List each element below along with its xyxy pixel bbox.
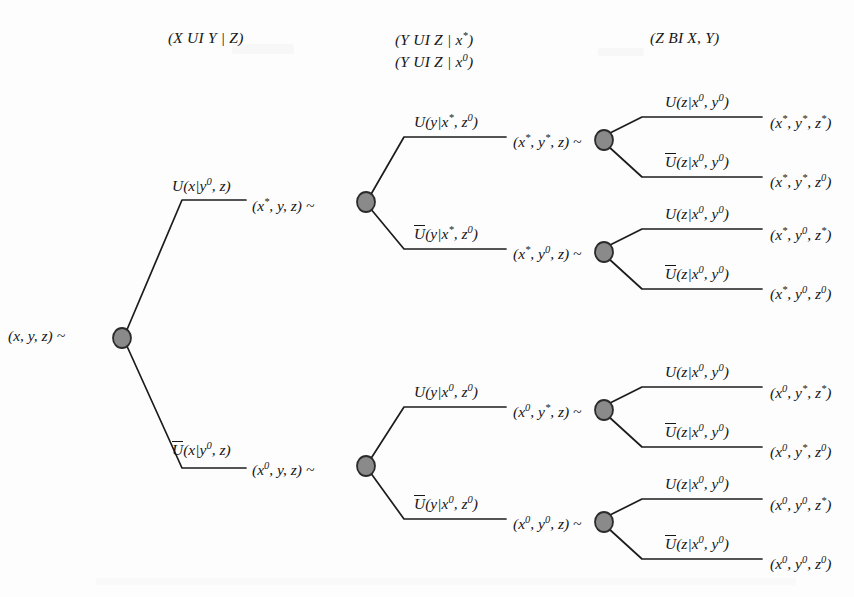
- state-label-l2-a: (x*, y*, z) ~: [513, 132, 581, 150]
- branch-label-l3-5: U(z|x0, y0): [665, 362, 729, 380]
- figure-canvas: (X UI Y | Z) (Y UI Z | x*) (Y UI Z | x0)…: [0, 0, 854, 597]
- leaf-outcome-6: (x0, y*, z0): [770, 442, 831, 460]
- edge-n3-positive: [608, 387, 762, 404]
- edge-root-to-x-star: [126, 200, 246, 332]
- node-xzero-ystar: [595, 400, 613, 420]
- header-test-1: (X UI Y | Z): [168, 30, 244, 46]
- header-test-2b: (Y UI Z | x0): [395, 52, 473, 70]
- node-xstar-yzero: [595, 242, 613, 262]
- edge-n4-positive: [608, 499, 762, 516]
- leaf-outcome-7: (x0, y0, z*): [770, 495, 831, 513]
- branch-label-l2-a: U(y|x*, z0): [414, 112, 478, 130]
- branch-label-l2-c: U(y|x0, z0): [414, 382, 478, 400]
- edge-xstar-to-ystar: [370, 137, 506, 196]
- leaf-outcome-1: (x*, y*, z*): [770, 113, 831, 131]
- leaf-outcome-8: (x0, y0, z0): [770, 554, 831, 572]
- state-label-l2-d: (x0, y0, z) ~: [513, 514, 581, 532]
- branch-label-l3-2: U(z|x0, y0): [665, 152, 729, 170]
- leaf-outcome-3: (x*, y0, z*): [770, 225, 831, 243]
- state-label-l2-c: (x0, y*, z) ~: [513, 402, 581, 420]
- edge-n1-positive: [608, 117, 762, 134]
- branch-label-l1-lower: U(x|y0, z): [172, 440, 231, 458]
- node-x-star: [357, 192, 375, 212]
- leaf-outcome-4: (x*, y0, z0): [770, 284, 831, 302]
- branch-label-l2-b: U(y|x*, z0): [414, 224, 478, 242]
- node-xstar-ystar: [595, 130, 613, 150]
- node-root: [113, 328, 131, 348]
- node-x-zero: [357, 456, 375, 476]
- state-label-l1-lower: (x0, y, z) ~: [252, 460, 314, 478]
- node-xzero-yzero: [595, 512, 613, 532]
- leaf-outcome-2: (x*, y*, z0): [770, 172, 831, 190]
- branch-label-l3-3: U(z|x0, y0): [665, 204, 729, 222]
- root-state-label: (x, y, z) ~: [8, 328, 65, 344]
- edge-n2-positive: [608, 229, 762, 246]
- header-test-3: (Z BI X, Y): [650, 30, 719, 46]
- state-label-l2-b: (x*, y0, z) ~: [513, 244, 581, 262]
- branch-label-l1-upper: U(x|y0, z): [172, 176, 231, 194]
- branch-label-l2-d: U(y|x0, z0): [414, 494, 478, 512]
- branch-label-l3-1: U(z|x0, y0): [665, 92, 729, 110]
- branch-label-l3-4: U(z|x0, y0): [665, 264, 729, 282]
- branch-label-l3-8: U(z|x0, y0): [665, 534, 729, 552]
- state-label-l1-upper: (x*, y, z) ~: [252, 196, 314, 214]
- header-test-2a: (Y UI Z | x*): [395, 30, 473, 48]
- leaf-outcome-5: (x0, y*, z*): [770, 383, 831, 401]
- branch-label-l3-6: U(z|x0, y0): [665, 422, 729, 440]
- branch-label-l3-7: U(z|x0, y0): [665, 474, 729, 492]
- edge-xzero-to-ystar: [370, 407, 506, 460]
